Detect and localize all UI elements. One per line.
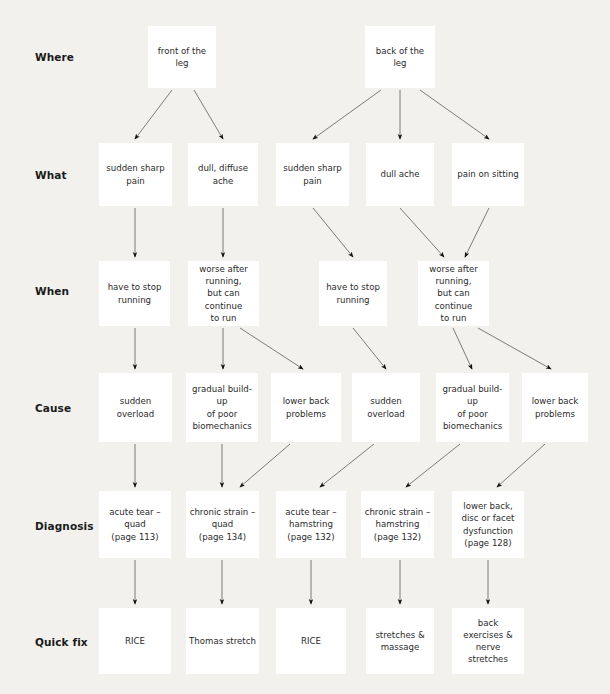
node-label: RICE — [125, 635, 145, 647]
node-d2[interactable]: chronic strain – quad (page 134) — [186, 491, 259, 558]
node-n2[interactable]: worse after running, but can continue to… — [188, 261, 259, 326]
flow-arrow — [313, 90, 381, 139]
row-label-diagnosis: Diagnosis — [35, 520, 94, 532]
node-t3[interactable]: sudden sharp pain — [276, 143, 349, 206]
node-label: dull, diffuse ache — [198, 162, 248, 186]
node-w1[interactable]: front of the leg — [148, 26, 216, 88]
node-t2[interactable]: dull, diffuse ache — [188, 143, 258, 206]
node-label: stretches & massage — [375, 629, 424, 653]
node-c4[interactable]: sudden overload — [352, 373, 420, 442]
node-label: sudden sharp pain — [106, 162, 164, 186]
node-c2[interactable]: gradual build-up of poor biomechanics — [186, 373, 258, 442]
flow-arrow — [135, 90, 172, 139]
node-label: sudden overload — [102, 395, 169, 419]
node-q3[interactable]: RICE — [276, 608, 346, 674]
node-label: back exercises & nerve stretches — [455, 617, 521, 666]
row-label-cause: Cause — [35, 402, 71, 414]
node-c3[interactable]: lower back problems — [271, 373, 341, 442]
node-label: pain on sitting — [457, 168, 519, 180]
flow-arrow — [497, 444, 545, 487]
node-label: front of the leg — [158, 45, 206, 69]
node-q5[interactable]: back exercises & nerve stretches — [452, 608, 524, 674]
node-c1[interactable]: sudden overload — [99, 373, 172, 442]
node-label: lower back, disc or facet dysfunction (p… — [462, 500, 515, 549]
flow-arrow — [320, 444, 374, 487]
node-q1[interactable]: RICE — [99, 608, 171, 674]
flow-arrow — [406, 444, 460, 487]
node-c5[interactable]: gradual build-up of poor biomechanics — [436, 373, 509, 442]
node-t5[interactable]: pain on sitting — [452, 143, 524, 206]
edge-layer — [0, 0, 610, 694]
row-label-when: When — [35, 285, 69, 297]
node-label: acute tear – quad (page 113) — [109, 506, 160, 543]
node-label: back of the leg — [376, 45, 424, 69]
flow-arrow — [240, 444, 290, 487]
flow-arrow — [353, 328, 386, 369]
node-n4[interactable]: worse after running, but can continue to… — [418, 261, 489, 326]
node-d1[interactable]: acute tear – quad (page 113) — [99, 491, 171, 558]
node-label: Thomas stretch — [189, 635, 256, 647]
flow-arrow — [465, 208, 489, 257]
flow-arrow — [453, 328, 472, 369]
node-label: acute tear – hamstring (page 132) — [285, 506, 336, 543]
node-t4[interactable]: dull ache — [366, 143, 434, 206]
node-label: gradual build-up of poor biomechanics — [439, 383, 506, 432]
node-q4[interactable]: stretches & massage — [366, 608, 434, 674]
node-n1[interactable]: have to stop running — [99, 261, 170, 326]
node-label: have to stop running — [108, 281, 162, 305]
flow-arrow — [420, 90, 489, 139]
node-d4[interactable]: chronic strain – hamstring (page 132) — [361, 491, 434, 558]
node-label: worse after running, but can continue to… — [191, 263, 256, 324]
node-d5[interactable]: lower back, disc or facet dysfunction (p… — [452, 491, 524, 558]
flow-arrow — [194, 90, 223, 139]
node-label: lower back problems — [283, 395, 330, 419]
node-label: sudden overload — [355, 395, 417, 419]
flow-arrow — [478, 328, 551, 369]
node-label: dull ache — [380, 168, 419, 180]
row-label-quickfix: Quick fix — [35, 636, 88, 648]
node-q2[interactable]: Thomas stretch — [186, 608, 259, 674]
node-t1[interactable]: sudden sharp pain — [99, 143, 172, 206]
node-d3[interactable]: acute tear – hamstring (page 132) — [276, 491, 346, 558]
node-label: sudden sharp pain — [283, 162, 341, 186]
node-n3[interactable]: have to stop running — [319, 261, 387, 326]
node-label: have to stop running — [326, 281, 380, 305]
flowchart-canvas: WhereWhatWhenCauseDiagnosisQuick fix fro… — [0, 0, 610, 694]
node-c6[interactable]: lower back problems — [522, 373, 588, 442]
row-label-what: What — [35, 169, 67, 181]
flow-arrow — [400, 208, 444, 257]
row-label-where: Where — [35, 51, 74, 63]
node-label: lower back problems — [532, 395, 579, 419]
node-label: worse after running, but can continue to… — [421, 263, 486, 324]
node-label: chronic strain – quad (page 134) — [190, 506, 256, 543]
node-label: chronic strain – hamstring (page 132) — [365, 506, 431, 543]
node-label: RICE — [301, 635, 321, 647]
node-label: gradual build-up of poor biomechanics — [189, 383, 255, 432]
node-w2[interactable]: back of the leg — [365, 26, 435, 88]
flow-arrow — [240, 328, 303, 369]
flow-arrow — [313, 208, 353, 257]
